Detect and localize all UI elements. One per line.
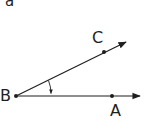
subfigure-label: a <box>5 0 14 9</box>
angle-arc-arrow <box>49 81 52 94</box>
point-b <box>14 94 18 98</box>
label-a: A <box>110 103 121 119</box>
label-c: C <box>92 30 103 46</box>
point-c <box>102 50 106 54</box>
label-b: B <box>0 88 11 104</box>
ray-bc <box>16 42 126 96</box>
point-a <box>110 94 114 98</box>
diagram-svg <box>0 0 144 133</box>
angle-diagram: a B C A <box>0 0 144 133</box>
